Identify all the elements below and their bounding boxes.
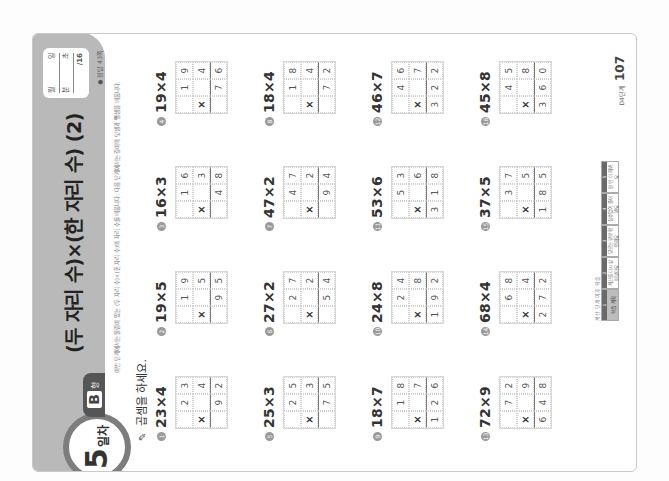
digit-cell: 4: [301, 62, 318, 79]
digit-cell: 6: [500, 289, 517, 306]
answer-cell[interactable]: 8: [534, 377, 551, 394]
problem-number-icon: 10: [373, 327, 382, 336]
problem-number-icon: 15: [481, 222, 490, 231]
digit-cell: 4: [392, 79, 409, 96]
vertical-multiplication-grid: 18×472: [283, 61, 336, 114]
answer-cell[interactable]: 5: [318, 289, 335, 306]
answer-cell[interactable]: 7: [318, 394, 335, 411]
vertical-multiplication-grid: 46×7322: [391, 61, 444, 114]
answer-cell[interactable]: 4: [210, 184, 227, 201]
answer-cell[interactable]: 8: [426, 167, 443, 184]
answer-cell[interactable]: 2: [426, 79, 443, 96]
problem-3: 316×316×348: [153, 141, 233, 231]
problem-15: 1537×537×5185: [477, 141, 557, 231]
digit-cell: [301, 79, 318, 96]
answer-cell[interactable]: 6: [426, 377, 443, 394]
answer-cell[interactable]: [210, 411, 227, 428]
answer-cell[interactable]: 1: [534, 201, 551, 218]
problem-expression: 23×4: [153, 386, 169, 428]
answer-cell[interactable]: 4: [318, 272, 335, 289]
digit-cell: [193, 79, 210, 96]
answer-cell[interactable]: 8: [534, 184, 551, 201]
answer-cell[interactable]: 6: [534, 411, 551, 428]
digit-cell: 5: [517, 167, 534, 184]
vertical-multiplication-grid: 25×375: [283, 376, 336, 429]
digit-cell: 3: [176, 377, 193, 394]
answer-cell[interactable]: 3: [426, 96, 443, 113]
digit-cell: 3: [301, 377, 318, 394]
answer-cell[interactable]: 6: [534, 79, 551, 96]
answer-cell[interactable]: 1: [426, 411, 443, 428]
answer-cell[interactable]: 3: [426, 201, 443, 218]
answer-cell[interactable]: 9: [426, 289, 443, 306]
answer-cell[interactable]: 2: [210, 377, 227, 394]
answer-cell[interactable]: 5: [318, 377, 335, 394]
digit-cell: [409, 289, 426, 306]
answer-cell[interactable]: 2: [426, 394, 443, 411]
day-suffix: 일차: [94, 425, 111, 447]
score-box: 월 일 분 초 /16: [43, 48, 89, 98]
answer-cell[interactable]: 9: [210, 289, 227, 306]
digit-cell: 8: [409, 272, 426, 289]
problem-2: 219×519×595: [153, 246, 233, 336]
answer-cell[interactable]: [210, 96, 227, 113]
digit-cell: [284, 306, 301, 323]
answer-cell[interactable]: 4: [534, 394, 551, 411]
pencil-icon: ✎: [137, 433, 148, 441]
problem-header: 1246×7: [369, 36, 385, 126]
digit-cell: 8: [392, 377, 409, 394]
digit-cell: 1: [176, 289, 193, 306]
problem-number-icon: 14: [481, 327, 490, 336]
answer-cell[interactable]: 2: [318, 62, 335, 79]
answer-cell[interactable]: [210, 201, 227, 218]
problem-number-icon: 12: [373, 117, 382, 126]
digit-cell: 8: [284, 62, 301, 79]
times-sign: ×: [193, 96, 210, 113]
times-sign: ×: [517, 306, 534, 323]
step-5: 5한 번 더 해봐요: [601, 161, 619, 193]
problem-8: 818×418×472: [261, 36, 341, 126]
answer-cell[interactable]: [318, 96, 335, 113]
answer-cell[interactable]: 6: [210, 62, 227, 79]
times-sign: ×: [409, 96, 426, 113]
step-label: 계산을 다시 살펴보아요: [607, 258, 619, 288]
day-badge: 5 일차: [63, 413, 131, 472]
answer-cell[interactable]: 7: [534, 289, 551, 306]
digit-cell: 1: [284, 79, 301, 96]
answer-cell[interactable]: [210, 306, 227, 323]
minute-label: 분: [60, 87, 73, 93]
answer-cell[interactable]: 3: [534, 96, 551, 113]
problem-11: 1153×653×6318: [369, 141, 449, 231]
problem-header: 219×5: [153, 246, 169, 336]
answer-cell[interactable]: 1: [426, 306, 443, 323]
answer-cell[interactable]: 2: [534, 272, 551, 289]
digit-cell: 2: [301, 272, 318, 289]
answer-cell[interactable]: [318, 411, 335, 428]
answer-cell[interactable]: 4: [318, 167, 335, 184]
answer-cell[interactable]: 7: [210, 79, 227, 96]
digit-cell: [301, 289, 318, 306]
digit-cell: [500, 96, 517, 113]
digit-cell: 4: [193, 377, 210, 394]
answer-cell[interactable]: 9: [318, 184, 335, 201]
digit-cell: [392, 306, 409, 323]
digit-cell: [500, 411, 517, 428]
digit-cell: 7: [500, 167, 517, 184]
answer-cell[interactable]: 7: [318, 79, 335, 96]
answer-cell[interactable]: 9: [210, 394, 227, 411]
answer-cell[interactable]: 8: [210, 167, 227, 184]
answer-cell[interactable]: 2: [534, 306, 551, 323]
digit-cell: 2: [176, 394, 193, 411]
answer-cell[interactable]: [318, 306, 335, 323]
answer-cell[interactable]: 5: [210, 272, 227, 289]
answer-cell[interactable]: 2: [426, 272, 443, 289]
digit-cell: 9: [517, 377, 534, 394]
answer-cell[interactable]: [318, 201, 335, 218]
digit-cell: 4: [392, 272, 409, 289]
vertical-multiplication-grid: 24×8192: [391, 271, 444, 324]
answer-cell[interactable]: 5: [534, 167, 551, 184]
answer-cell[interactable]: 1: [426, 184, 443, 201]
problem-number-icon: 13: [481, 432, 490, 441]
answer-cell[interactable]: 2: [426, 62, 443, 79]
answer-cell[interactable]: 0: [534, 62, 551, 79]
